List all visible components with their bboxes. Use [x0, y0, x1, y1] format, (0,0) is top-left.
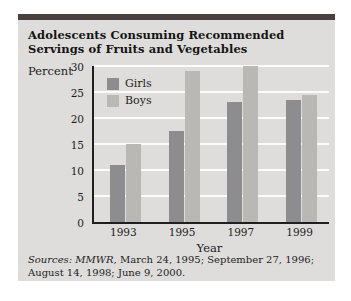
bar-girls-1997	[227, 102, 242, 222]
sources-journal: MMWR	[72, 254, 113, 265]
x-axis-title: Year	[92, 241, 327, 255]
x-tick-label-1999: 1999	[280, 226, 320, 238]
bar-boys-1999	[302, 95, 317, 222]
bar-boys-1993	[126, 144, 141, 222]
y-tick-label-30: 30	[52, 61, 84, 73]
sources-line2: August 14, 1998; June 9, 2000.	[28, 267, 185, 278]
sources-note: Sources: MMWR, March 24, 1995; September…	[28, 254, 334, 279]
x-axis-labels: 1993199519971999	[92, 226, 327, 240]
chart-title: Adolescents Consuming Recommended Servin…	[28, 28, 330, 56]
bar-girls-1999	[286, 100, 301, 222]
y-tick-label-25: 25	[52, 87, 84, 99]
legend-label-girls: Girls	[125, 77, 152, 90]
boys-swatch	[107, 95, 119, 107]
bar-boys-1997	[243, 66, 258, 222]
y-tick-label-0: 0	[52, 217, 84, 229]
bar-girls-1993	[110, 165, 125, 222]
x-tick-label-1995: 1995	[162, 226, 202, 238]
legend: Girls Boys	[107, 77, 152, 111]
x-tick-label-1993: 1993	[103, 226, 143, 238]
x-tick-label-1997: 1997	[221, 226, 261, 238]
sources-prefix: Sources:	[28, 254, 72, 265]
y-tick-label-10: 10	[52, 165, 84, 177]
y-tick-label-5: 5	[52, 191, 84, 203]
chart-panel: Adolescents Consuming Recommended Servin…	[18, 20, 335, 281]
gridline	[94, 65, 329, 67]
legend-label-boys: Boys	[125, 94, 152, 107]
y-tick-label-20: 20	[52, 113, 84, 125]
plot-area: Girls Boys	[92, 66, 329, 224]
girls-swatch	[107, 78, 119, 90]
bar-boys-1995	[185, 71, 200, 222]
legend-item-girls: Girls	[107, 77, 152, 90]
y-axis-labels: 051015202530	[56, 66, 88, 222]
sources-line1-rest: , March 24, 1995; September 27, 1996;	[114, 254, 314, 265]
bar-girls-1995	[169, 131, 184, 222]
legend-item-boys: Boys	[107, 94, 152, 107]
y-tick-label-15: 15	[52, 139, 84, 151]
